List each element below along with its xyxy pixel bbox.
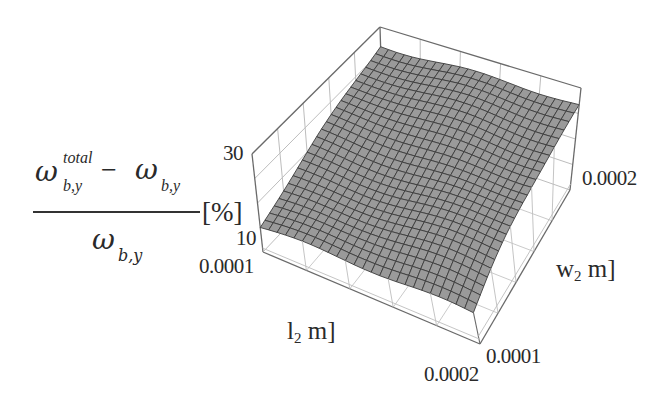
sub-by-1: b,y bbox=[63, 178, 82, 194]
sup-total: total bbox=[63, 150, 92, 166]
w2-tick-low: 0.0001 bbox=[486, 346, 541, 367]
sub-by-den: b,y bbox=[118, 248, 142, 264]
z-axis-title: ω total b,y − ω b,y ω b,y [%] bbox=[30, 156, 240, 276]
sub-by-2: b,y bbox=[161, 178, 180, 194]
l2-title-main: l bbox=[287, 317, 294, 344]
w2-title-unit: m] bbox=[582, 255, 616, 282]
omega-den: ω bbox=[92, 223, 115, 256]
w2-title-sub: 2 bbox=[574, 268, 582, 284]
minus-sign: − bbox=[101, 156, 117, 184]
w2-tick-high: 0.0002 bbox=[582, 168, 637, 189]
surface-mesh bbox=[260, 47, 579, 313]
fraction-bar bbox=[33, 211, 200, 213]
percent-unit: [%] bbox=[202, 199, 242, 226]
z-title-denominator: ω b,y bbox=[92, 226, 115, 254]
l2-axis-title: l2 m] bbox=[287, 318, 335, 346]
z-title-numerator: ω total b,y − ω b,y bbox=[35, 156, 58, 186]
l2-title-unit: m] bbox=[301, 317, 335, 344]
w2-axis-title: w2 m] bbox=[556, 256, 616, 284]
omega-2: ω bbox=[135, 156, 158, 184]
omega-total: ω bbox=[35, 155, 58, 188]
w2-title-main: w bbox=[556, 255, 574, 282]
l2-tick-high: 0.0002 bbox=[424, 364, 479, 385]
